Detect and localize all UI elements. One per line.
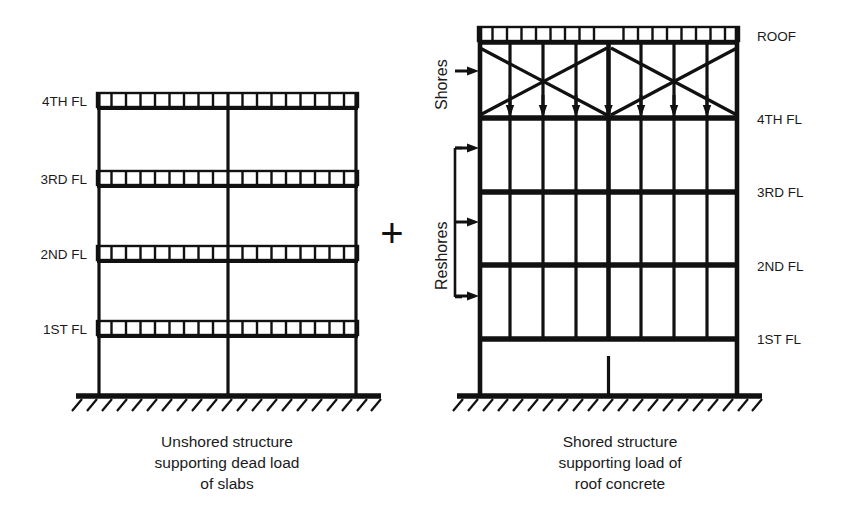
right-floor-label-3rd: 3RD FL xyxy=(757,185,804,200)
reshores-label: Reshores xyxy=(433,222,450,290)
shore-load-arrows xyxy=(506,95,711,117)
right-floor-label-roof: ROOF xyxy=(757,29,796,44)
right-slab-roof xyxy=(478,27,739,43)
left-floor-label-1st: 1ST FL xyxy=(43,322,88,337)
left-caption-line-2: supporting dead load xyxy=(155,454,300,471)
shores-annotation: Shores xyxy=(433,59,479,110)
left-structure: 4TH FL 3RD FL 2ND FL 1ST FL Unshored str… xyxy=(40,93,381,492)
left-ground xyxy=(72,396,381,411)
left-caption-line-3: of slabs xyxy=(200,475,254,492)
right-floor-label-1st: 1ST FL xyxy=(757,332,802,347)
right-caption-line-3: roof concrete xyxy=(575,475,665,492)
right-ground xyxy=(453,396,762,411)
diagram-root: 4TH FL 3RD FL 2ND FL 1ST FL Unshored str… xyxy=(0,0,846,524)
structural-diagram: 4TH FL 3RD FL 2ND FL 1ST FL Unshored str… xyxy=(0,0,846,524)
left-columns xyxy=(99,93,356,395)
left-floor-label-2nd: 2ND FL xyxy=(40,247,87,262)
left-floor-label-4th: 4TH FL xyxy=(42,94,88,109)
plus-operator: + xyxy=(380,211,403,255)
left-floor-label-3rd: 3RD FL xyxy=(40,172,87,187)
right-floor-label-4th: 4TH FL xyxy=(757,112,803,127)
right-floor-label-2nd: 2ND FL xyxy=(757,259,804,274)
right-structure: Shores Reshores xyxy=(433,27,804,492)
right-caption-line-1: Shored structure xyxy=(563,433,678,450)
right-caption-line-2: supporting load of xyxy=(558,454,682,471)
reshores-annotation: Reshores xyxy=(433,144,479,301)
shores-label: Shores xyxy=(433,59,450,110)
left-caption-line-1: Unshored structure xyxy=(161,433,293,450)
